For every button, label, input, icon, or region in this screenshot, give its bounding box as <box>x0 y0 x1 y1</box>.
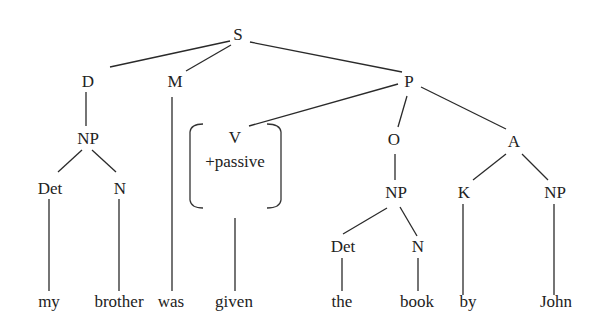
node-np-object: NP <box>385 183 407 202</box>
node-m: M <box>167 72 182 91</box>
word-brother: brother <box>94 292 143 311</box>
node-s: S <box>233 25 242 44</box>
edge-np-det <box>58 150 82 172</box>
edge-p-v <box>249 84 398 126</box>
word-book: book <box>400 292 435 311</box>
edge-a-k <box>473 154 506 180</box>
edge-p-a <box>421 87 506 129</box>
right-bracket <box>267 124 281 208</box>
tree-nodes: S D M P NP V +passive O A Det N NP K NP … <box>38 25 566 256</box>
node-n-subject: N <box>114 179 126 198</box>
node-k: K <box>458 183 471 202</box>
node-o: O <box>388 130 400 149</box>
word-given: given <box>215 292 253 311</box>
left-bracket <box>190 124 203 208</box>
node-det-object: Det <box>331 237 356 256</box>
node-d: D <box>82 72 94 91</box>
node-np-agent: NP <box>544 183 566 202</box>
node-v: V <box>229 128 242 147</box>
edge-s-p <box>250 42 402 72</box>
node-a: A <box>508 132 521 151</box>
word-by: by <box>460 292 478 311</box>
word-my: my <box>38 292 60 311</box>
edge-p-o <box>398 96 407 127</box>
tree-edges <box>49 41 554 295</box>
node-det-subject: Det <box>38 179 63 198</box>
tree-words: my brother was given the book by John <box>38 292 572 311</box>
node-np-subject: NP <box>77 129 99 148</box>
edge-np-n2 <box>400 207 417 236</box>
syntax-tree-diagram: S D M P NP V +passive O A Det N NP K NP … <box>0 0 604 336</box>
word-john: John <box>540 292 573 311</box>
edge-s-d <box>110 41 230 67</box>
node-n-object: N <box>412 237 424 256</box>
edge-a-np <box>522 154 548 180</box>
node-v-feature: +passive <box>205 152 265 171</box>
word-was: was <box>158 292 184 311</box>
edge-np-det2 <box>343 208 387 234</box>
node-p: P <box>404 72 413 91</box>
word-the: the <box>332 292 353 311</box>
edge-np-n <box>92 150 116 172</box>
